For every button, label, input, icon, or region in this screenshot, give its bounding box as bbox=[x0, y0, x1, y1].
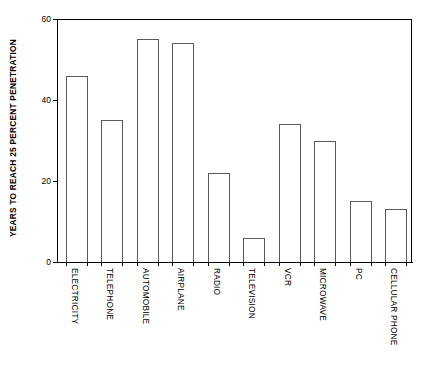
x-axis-tick-mark bbox=[172, 262, 173, 266]
bar bbox=[385, 209, 407, 262]
x-axis-tick-mark bbox=[229, 262, 230, 266]
bar bbox=[243, 238, 265, 262]
x-axis-tick-mark bbox=[87, 262, 88, 266]
x-axis-tick-mark bbox=[335, 262, 336, 266]
x-axis-tick-mark bbox=[279, 262, 280, 266]
x-axis-label: MICROWAVE bbox=[316, 268, 330, 367]
x-axis-tick-mark bbox=[122, 262, 123, 266]
y-axis-title-text: YEARS TO REACH 25 PERCENT PENETRATION bbox=[8, 39, 18, 237]
y-axis-tick: 40 bbox=[42, 95, 57, 105]
bar bbox=[172, 43, 194, 262]
bar-chart: YEARS TO REACH 25 PERCENT PENETRATION 02… bbox=[0, 0, 422, 367]
x-axis-label: PC bbox=[352, 268, 366, 367]
x-axis-tick-mark bbox=[300, 262, 301, 266]
x-axis-label: VCR bbox=[281, 268, 295, 367]
x-axis-tick-mark bbox=[137, 262, 138, 266]
y-axis-tick: 60 bbox=[42, 14, 57, 24]
x-axis-label: AUTOMOBILE bbox=[139, 268, 153, 367]
x-axis-label: AIRPLANE bbox=[174, 268, 188, 367]
x-axis-tick-mark bbox=[350, 262, 351, 266]
y-axis-tick-label: 40 bbox=[42, 95, 51, 105]
bar bbox=[137, 39, 159, 262]
x-axis-tick-mark bbox=[314, 262, 315, 266]
x-axis-tick-mark bbox=[406, 262, 407, 266]
bar bbox=[279, 124, 301, 262]
x-axis-label: ELECTRICITY bbox=[68, 268, 82, 367]
y-axis-tick-label: 0 bbox=[46, 257, 51, 267]
x-axis-tick-mark bbox=[66, 262, 67, 266]
x-axis-labels: ELECTRICITYTELEPHONEAUTOMOBILEAIRPLANERA… bbox=[57, 268, 412, 367]
x-axis-ticks bbox=[57, 262, 412, 267]
x-axis-tick-mark bbox=[158, 262, 159, 266]
y-axis-title: YEARS TO REACH 25 PERCENT PENETRATION bbox=[0, 0, 26, 275]
x-axis-tick-mark bbox=[385, 262, 386, 266]
bar bbox=[314, 141, 336, 263]
y-axis-tick-label: 20 bbox=[42, 176, 51, 186]
x-axis-label: CELLULAR PHONE bbox=[387, 268, 401, 367]
x-axis-tick-mark bbox=[264, 262, 265, 266]
y-axis-tick: 20 bbox=[42, 176, 57, 186]
x-axis-label: TELEPHONE bbox=[103, 268, 117, 367]
bar bbox=[208, 173, 230, 262]
y-axis-tick: 0 bbox=[46, 257, 57, 267]
bars-container bbox=[57, 19, 412, 262]
y-axis: 0204060 bbox=[30, 14, 57, 266]
bar bbox=[66, 76, 88, 262]
y-axis-tick-label: 60 bbox=[42, 14, 51, 24]
bar bbox=[101, 120, 123, 262]
x-axis-tick-mark bbox=[193, 262, 194, 266]
x-axis-tick-mark bbox=[101, 262, 102, 266]
x-axis-tick-mark bbox=[371, 262, 372, 266]
x-axis-label: RADIO bbox=[210, 268, 224, 367]
x-axis-tick-mark bbox=[243, 262, 244, 266]
x-axis-label: TELEVISION bbox=[245, 268, 259, 367]
bar bbox=[350, 201, 372, 262]
x-axis-tick-mark bbox=[208, 262, 209, 266]
